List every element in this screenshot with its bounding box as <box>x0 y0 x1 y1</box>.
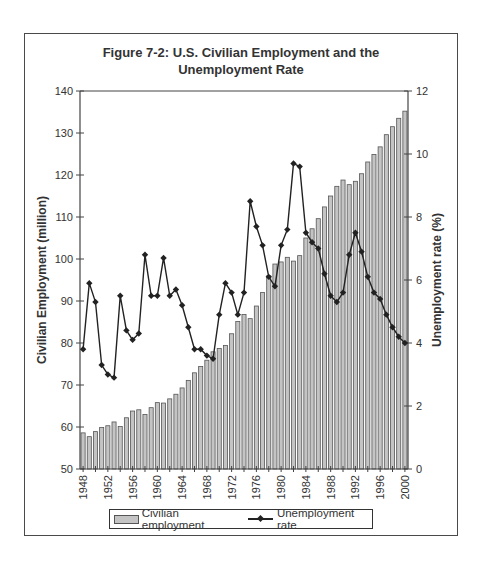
employment-bar <box>137 410 141 469</box>
diamond-marker-icon <box>80 346 86 352</box>
x-tick-label: 1952 <box>102 475 114 499</box>
diamond-marker-icon <box>92 299 98 305</box>
diamond-marker-icon <box>296 163 302 169</box>
employment-bar <box>310 229 314 469</box>
left-axis-title: Civilian Employment (million) <box>35 196 49 364</box>
left-tick-label: 110 <box>55 211 73 223</box>
employment-bar <box>149 408 153 469</box>
employment-bar <box>131 411 135 469</box>
employment-bar <box>168 399 172 469</box>
employment-bar <box>261 293 265 469</box>
combo-chart: 5060708090100110120130140024681012194819… <box>0 0 484 573</box>
right-axis-title: Unemployment rate (%) <box>430 213 444 347</box>
employment-bar <box>174 394 178 469</box>
employment-bar <box>162 403 166 469</box>
diamond-marker-icon <box>216 311 222 317</box>
x-tick-label: 1968 <box>201 475 213 499</box>
diamond-marker-icon <box>179 302 185 308</box>
diamond-marker-icon <box>290 160 296 166</box>
employment-bar <box>118 427 122 469</box>
employment-bar <box>273 264 277 469</box>
employment-bar <box>236 322 240 469</box>
diamond-marker-icon <box>241 289 247 295</box>
left-tick-label: 50 <box>61 463 73 475</box>
diamond-marker-icon <box>148 293 154 299</box>
diamond-marker-icon <box>160 255 166 261</box>
x-tick-label: 1992 <box>349 475 361 499</box>
employment-bar <box>304 238 308 469</box>
x-tick-label: 1964 <box>176 475 188 499</box>
employment-bar <box>242 314 246 469</box>
employment-bar <box>205 360 209 469</box>
employment-bar <box>211 352 215 469</box>
left-tick-label: 60 <box>61 421 73 433</box>
diamond-marker-icon <box>142 252 148 258</box>
x-tick-label: 1960 <box>151 475 163 499</box>
diamond-marker-icon <box>154 293 160 299</box>
line-marker-icon <box>248 514 273 524</box>
employment-bar <box>397 118 401 469</box>
diamond-marker-icon <box>247 198 253 204</box>
employment-bar <box>372 154 376 469</box>
employment-bar <box>106 426 110 469</box>
left-tick-label: 120 <box>55 169 73 181</box>
employment-bar <box>87 437 91 469</box>
employment-bar <box>378 147 382 469</box>
employment-bar <box>217 348 221 469</box>
employment-bar <box>360 174 364 469</box>
left-tick-label: 140 <box>55 85 73 97</box>
x-tick-label: 1972 <box>226 475 238 499</box>
legend-line-label: Unemployment rate <box>277 507 372 531</box>
employment-bar <box>223 346 227 469</box>
employment-bar <box>298 256 302 469</box>
x-tick-label: 1956 <box>127 475 139 499</box>
diamond-marker-icon <box>284 226 290 232</box>
employment-bar <box>124 418 128 469</box>
diamond-marker-icon <box>111 374 117 380</box>
employment-bar <box>322 207 326 469</box>
employment-bar <box>248 319 252 469</box>
right-tick-label: 4 <box>416 337 422 349</box>
employment-bar <box>347 185 351 469</box>
diamond-marker-icon <box>235 311 241 317</box>
left-tick-label: 70 <box>61 379 73 391</box>
employment-bar <box>390 127 394 469</box>
employment-bar <box>192 373 196 469</box>
employment-bar <box>353 181 357 469</box>
employment-bar <box>403 111 407 469</box>
employment-bar <box>366 162 370 469</box>
right-tick-label: 12 <box>416 85 428 97</box>
x-tick-label: 1984 <box>300 475 312 499</box>
employment-bar <box>93 432 97 469</box>
employment-bar <box>267 276 271 469</box>
employment-bar <box>254 306 258 469</box>
x-tick-label: 1980 <box>275 475 287 499</box>
employment-bar <box>335 186 339 469</box>
left-tick-label: 100 <box>55 253 73 265</box>
employment-bar <box>180 388 184 469</box>
x-tick-label: 1988 <box>325 475 337 499</box>
legend: Civilian employment Unemployment rate <box>109 509 373 529</box>
legend-bar-label: Civilian employment <box>142 507 240 531</box>
x-tick-label: 1996 <box>374 475 386 499</box>
employment-bar <box>341 180 345 469</box>
employment-bar <box>285 257 289 469</box>
right-tick-label: 0 <box>416 463 422 475</box>
employment-bar <box>81 433 85 469</box>
right-tick-label: 2 <box>416 400 422 412</box>
employment-bar <box>186 380 190 469</box>
x-tick-label: 1976 <box>250 475 262 499</box>
diamond-marker-icon <box>278 242 284 248</box>
x-tick-label: 1948 <box>77 475 89 499</box>
employment-bar <box>199 367 203 469</box>
employment-bar <box>100 427 104 469</box>
x-tick-label: 2000 <box>399 475 411 499</box>
right-tick-label: 8 <box>416 211 422 223</box>
employment-bar <box>112 422 116 469</box>
diamond-marker-icon <box>117 293 123 299</box>
left-tick-label: 90 <box>61 295 73 307</box>
diamond-marker-icon <box>191 346 197 352</box>
left-tick-label: 130 <box>55 127 73 139</box>
employment-bar <box>155 403 159 469</box>
employment-bar <box>291 261 295 469</box>
